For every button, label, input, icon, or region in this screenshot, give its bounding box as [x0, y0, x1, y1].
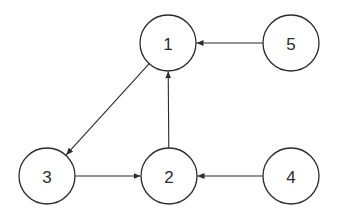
node-1[interactable]: 1	[140, 15, 196, 71]
edge-1-to-3	[66, 64, 149, 155]
node-1-label: 1	[163, 35, 172, 54]
node-3[interactable]: 3	[19, 148, 75, 204]
node-5-label: 5	[286, 35, 295, 54]
node-2-label: 2	[164, 168, 173, 187]
node-3-label: 3	[42, 168, 51, 187]
node-5[interactable]: 5	[263, 15, 319, 71]
node-4[interactable]: 4	[263, 148, 319, 204]
directed-graph: 1 2 3 4 5	[0, 0, 340, 215]
edge-2-to-1	[168, 72, 169, 149]
node-4-label: 4	[286, 168, 295, 187]
node-2[interactable]: 2	[141, 148, 197, 204]
